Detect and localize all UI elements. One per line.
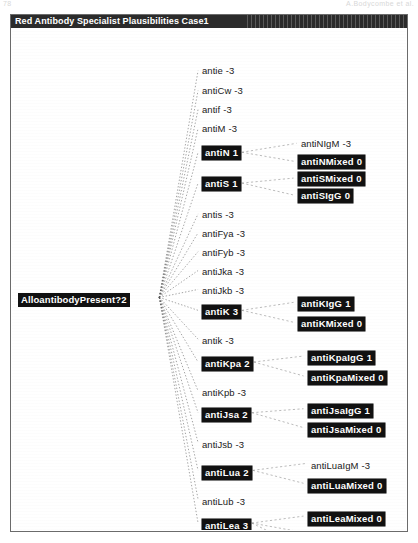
node-anticw[interactable]: antiCw-3 xyxy=(202,85,243,97)
node-antifyb[interactable]: antiFyb-3 xyxy=(202,247,245,259)
node-antif[interactable]: antif-3 xyxy=(202,104,232,116)
node-value: -3 xyxy=(238,387,247,398)
node-label: antiNMixed xyxy=(301,156,354,167)
node-value: -3 xyxy=(362,460,371,471)
scan-margin-right: A.Bodycombe et al. xyxy=(346,0,414,7)
node-antim[interactable]: antiM-3 xyxy=(202,123,237,135)
node-value: -3 xyxy=(237,247,246,258)
node-label: antiSMixed xyxy=(301,173,353,184)
node-label: antiJka xyxy=(202,266,232,277)
application-window: Red Antibody Specialist Plausibilities C… xyxy=(10,14,408,532)
node-label: antiLeaMixed xyxy=(311,513,374,524)
node-label: antiKpb xyxy=(202,387,235,398)
node-value: -3 xyxy=(234,85,243,96)
node-label: antiFyb xyxy=(202,247,234,258)
node-antin[interactable]: antiN1 xyxy=(202,146,241,160)
node-antinigm[interactable]: antiNIgM-3 xyxy=(301,138,351,150)
node-value: 1 xyxy=(367,352,372,363)
node-value: 2 xyxy=(244,358,249,369)
node-label: antiLub xyxy=(202,496,234,507)
node-value: 0 xyxy=(345,190,350,201)
node-value: 1 xyxy=(233,147,238,158)
node-antilea[interactable]: antiLea3 xyxy=(202,519,251,530)
node-value: 2 xyxy=(242,409,247,420)
root-node-label: AlloantibodyPresent? xyxy=(21,294,121,305)
node-antie[interactable]: antie-3 xyxy=(202,65,234,77)
node-antifya[interactable]: antiFya-3 xyxy=(202,228,245,240)
node-value: 0 xyxy=(357,156,362,167)
node-antilua[interactable]: antiLua2 xyxy=(202,466,252,480)
node-value: 0 xyxy=(378,372,383,383)
node-value: 0 xyxy=(376,424,381,435)
node-antismixed[interactable]: antiSMixed0 xyxy=(298,172,365,186)
window-titlebar[interactable]: Red Antibody Specialist Plausibilities C… xyxy=(11,15,407,28)
node-label: antiLua xyxy=(205,467,240,478)
root-node-value: 2 xyxy=(121,294,126,305)
node-antikpb[interactable]: antiKpb-3 xyxy=(202,387,246,399)
node-label: antiKpa xyxy=(205,358,241,369)
node-antisigg[interactable]: antiSIgG0 xyxy=(298,189,353,203)
node-label: antiK xyxy=(205,306,230,317)
node-label: antiM xyxy=(202,123,225,134)
node-antilub[interactable]: antiLub-3 xyxy=(202,496,245,508)
node-label: antiJsaIgG xyxy=(311,405,362,416)
node-antikpamixed[interactable]: antiKpaMixed0 xyxy=(308,371,387,385)
node-value: 1 xyxy=(232,178,237,189)
node-value: 1 xyxy=(345,298,350,309)
node-value: 3 xyxy=(233,306,238,317)
node-value: -3 xyxy=(237,496,246,507)
node-label: antiJsb xyxy=(202,439,232,450)
node-antinmixed[interactable]: antiNMixed0 xyxy=(298,155,365,169)
node-antikpaigg[interactable]: antiKpaIgG1 xyxy=(308,351,375,365)
node-value: 0 xyxy=(357,318,362,329)
node-label: antif xyxy=(202,104,220,115)
node-value: 1 xyxy=(365,405,370,416)
node-value: 0 xyxy=(356,173,361,184)
node-label: antie xyxy=(202,65,223,76)
node-label: antiFya xyxy=(202,228,234,239)
node-value: 0 xyxy=(377,513,382,524)
node-antijsamixed[interactable]: antiJsaMixed0 xyxy=(308,423,385,437)
node-label: antiCw xyxy=(202,85,231,96)
node-antiluamixed[interactable]: antiLuaMixed0 xyxy=(308,479,386,493)
node-antijsb[interactable]: antiJsb-3 xyxy=(202,439,244,451)
scan-margin-left: 78 xyxy=(3,0,12,7)
node-label: antik xyxy=(202,335,222,346)
node-label: antiSIgG xyxy=(301,190,342,201)
belief-network-canvas[interactable]: AlloantibodyPresent?2 antie-3antiCw-3ant… xyxy=(12,29,406,530)
node-value: -3 xyxy=(223,104,232,115)
node-antijsa[interactable]: antiJsa2 xyxy=(202,408,251,422)
node-antis[interactable]: antis-3 xyxy=(202,209,234,221)
node-value: 0 xyxy=(377,480,382,491)
node-antijsaigg[interactable]: antiJsaIgG1 xyxy=(308,404,373,418)
node-value: 2 xyxy=(243,467,248,478)
node-alloantibody-present[interactable]: AlloantibodyPresent?2 xyxy=(18,293,130,307)
node-label: antiKMixed xyxy=(301,318,354,329)
node-value: -3 xyxy=(237,228,246,239)
node-antikigg[interactable]: antiKIgG1 xyxy=(298,297,354,311)
node-value: -3 xyxy=(235,285,244,296)
node-antik[interactable]: antik-3 xyxy=(202,335,234,347)
node-antijka[interactable]: antiJka-3 xyxy=(202,266,244,278)
node-value: -3 xyxy=(228,123,237,134)
window-title: Red Antibody Specialist Plausibilities C… xyxy=(15,16,209,26)
node-value: -3 xyxy=(235,266,244,277)
node-antikmixed[interactable]: antiKMixed0 xyxy=(298,317,365,331)
node-antileamixed[interactable]: antiLeaMixed0 xyxy=(308,512,385,526)
node-label: antiJkb xyxy=(202,285,232,296)
node-value: -3 xyxy=(235,439,244,450)
node-antis[interactable]: antiS1 xyxy=(202,177,241,191)
node-label: antiKpaIgG xyxy=(311,352,364,363)
node-label: antiLuaMixed xyxy=(311,480,374,491)
node-label: antiLuaIgM xyxy=(311,460,359,471)
node-label: antis xyxy=(202,209,222,220)
node-antik[interactable]: antiK3 xyxy=(202,305,241,319)
node-value: -3 xyxy=(225,335,234,346)
node-label: antiKIgG xyxy=(301,298,342,309)
node-antikpa[interactable]: antiKpa2 xyxy=(202,357,253,371)
node-value: -3 xyxy=(342,138,351,149)
node-label: antiJsa xyxy=(205,409,239,420)
node-antijkb[interactable]: antiJkb-3 xyxy=(202,285,244,297)
node-antiluaigm[interactable]: antiLuaIgM-3 xyxy=(311,460,370,472)
node-label: antiNIgM xyxy=(301,138,339,149)
